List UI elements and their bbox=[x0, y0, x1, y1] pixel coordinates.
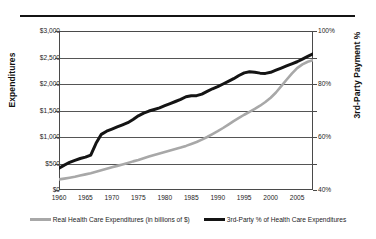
series-line bbox=[59, 54, 313, 168]
right-axis-tick-mark bbox=[313, 190, 317, 191]
legend-label: Real Health Care Expenditures (in billio… bbox=[53, 216, 190, 223]
legend-entry[interactable]: Real Health Care Expenditures (in billio… bbox=[30, 216, 190, 223]
legend-entry[interactable]: 3rd-Party % of Health Care Expenditures bbox=[204, 216, 346, 223]
left-axis-tick-label: $500 bbox=[4, 160, 60, 167]
left-axis-tick-label: $0 bbox=[4, 186, 60, 193]
legend-line-swatch-icon bbox=[204, 218, 225, 221]
right-axis-tick-label: 100% bbox=[318, 27, 358, 34]
right-axis-tick-label: 80% bbox=[318, 80, 358, 87]
right-axis-tick-mark bbox=[313, 31, 317, 32]
right-axis-tick-mark bbox=[313, 164, 317, 165]
plot-area bbox=[59, 31, 313, 190]
left-axis-tick-label: $2,500 bbox=[4, 54, 60, 61]
left-axis-tick-label: $3,000 bbox=[4, 27, 60, 34]
x-axis-tick-label: 2005 bbox=[282, 194, 312, 201]
right-axis-tick-label: 40% bbox=[318, 186, 358, 193]
right-axis-tick-mark bbox=[313, 84, 317, 85]
right-axis-tick-mark bbox=[313, 58, 317, 59]
right-axis-tick-mark bbox=[313, 111, 317, 112]
left-axis-tick-mark bbox=[55, 190, 59, 191]
left-axis-tick-label: $1,500 bbox=[4, 107, 60, 114]
right-axis-tick-label: 60% bbox=[318, 133, 358, 140]
chart-legend: Real Health Care Expenditures (in billio… bbox=[0, 216, 376, 223]
header-divider-rule bbox=[20, 15, 355, 17]
series-layer bbox=[59, 31, 313, 190]
left-axis-tick-label: $2,000 bbox=[4, 80, 60, 87]
left-axis-tick-label: $1,000 bbox=[4, 133, 60, 140]
faded-header-text bbox=[150, 0, 320, 10]
legend-label: 3rd-Party % of Health Care Expenditures bbox=[227, 216, 346, 223]
right-axis-tick-mark bbox=[313, 137, 317, 138]
chart-figure: Expenditures 3rd-Party Payment % $0$500$… bbox=[0, 0, 376, 239]
series-line bbox=[59, 60, 313, 179]
legend-line-swatch-icon bbox=[30, 218, 51, 221]
